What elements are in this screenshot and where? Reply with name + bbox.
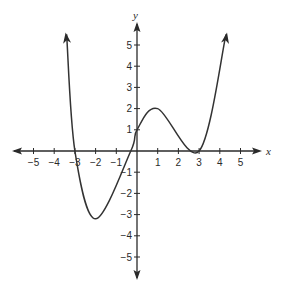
y-tick-label: −3 (121, 209, 133, 220)
y-axis-label: y (132, 9, 138, 21)
y-tick-label: 4 (126, 61, 132, 72)
x-tick-label: −4 (48, 157, 60, 168)
x-tick-label: 3 (196, 157, 202, 168)
x-axis-label: x (265, 145, 271, 157)
y-tick-label: −5 (121, 252, 133, 263)
y-axis: y 54321−1−2−3−4−5 (121, 9, 141, 280)
x-tick-label: 2 (176, 157, 182, 168)
x-tick-label: 1 (155, 157, 161, 168)
y-tick-label: 2 (126, 103, 132, 114)
curve-group (63, 32, 229, 218)
x-tick-label: −3 (69, 157, 81, 168)
y-tick-label: 1 (126, 124, 132, 135)
x-axis: x −5−4−3−2−112345 (12, 145, 271, 168)
y-tick-label: −2 (121, 188, 133, 199)
y-tick-label: 5 (126, 40, 132, 51)
x-tick-label: −2 (90, 157, 102, 168)
y-tick-label: −4 (121, 230, 133, 241)
x-tick-label: 5 (238, 157, 244, 168)
x-tick-label: −5 (28, 157, 40, 168)
function-graph: x −5−4−3−2−112345 y 54321−1−2−3−4−5 (0, 0, 282, 288)
y-tick-label: 3 (126, 82, 132, 93)
x-tick-label: 4 (217, 157, 223, 168)
polynomial-curve (67, 34, 226, 218)
